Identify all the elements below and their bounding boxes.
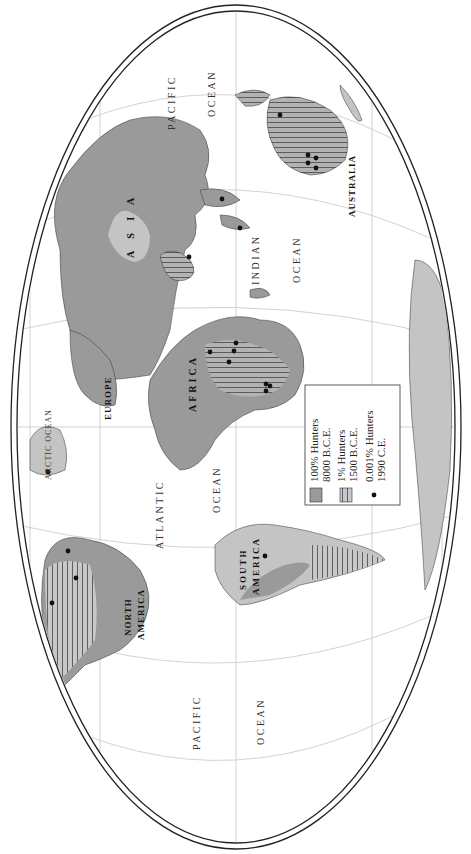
legend-item-1-line1: 100% Hunters — [308, 419, 320, 482]
legend: 100% Hunters 8000 B.C.E. 1% Hunters 1500… — [305, 385, 400, 505]
legend-dot-icon — [372, 493, 377, 498]
pacific-east-ocean-label: OCEAN — [206, 70, 217, 117]
pacific-east-label: PACIFIC — [166, 75, 177, 130]
africa-label: AFRICA — [187, 355, 198, 412]
asia-label: A S I A — [125, 193, 136, 258]
europe-label: EUROPE — [103, 376, 113, 420]
indian-label: INDIAN — [250, 234, 261, 285]
atlantic-ocean-label: OCEAN — [211, 466, 222, 513]
legend-swatch-full-hunters — [310, 488, 322, 502]
pacific-west-ocean-label: OCEAN — [255, 698, 266, 745]
legend-item-2-line2: 1500 B.C.E. — [347, 427, 359, 482]
legend-item-3-line2: 1990 C.E. — [375, 437, 387, 482]
pacific-west-label: PACIFIC — [191, 695, 202, 750]
north-america-label-1: NORTH — [123, 598, 133, 636]
north-america-label-2: AMERICA — [136, 589, 146, 640]
south-america-label-1: SOUTH — [238, 548, 248, 590]
legend-item-3-line1: 0.001% Hunters — [363, 411, 375, 483]
atlantic-label: ATLANTIC — [154, 480, 165, 549]
indian-ocean-label: OCEAN — [291, 236, 302, 283]
legend-item-1-line2: 8000 B.C.E. — [320, 427, 332, 482]
world-hunters-map: PACIFIC OCEAN INDIAN OCEAN ATLANTIC OCEA… — [0, 0, 471, 854]
legend-item-2-line1: 1% Hunters — [335, 430, 347, 482]
legend-swatch-hatched — [340, 488, 352, 502]
australia-label: AUSTRALIA — [347, 155, 357, 217]
south-america-label-2: AMERICA — [251, 537, 261, 595]
arctic-ocean-label: ARCTIC OCEAN — [44, 409, 53, 480]
